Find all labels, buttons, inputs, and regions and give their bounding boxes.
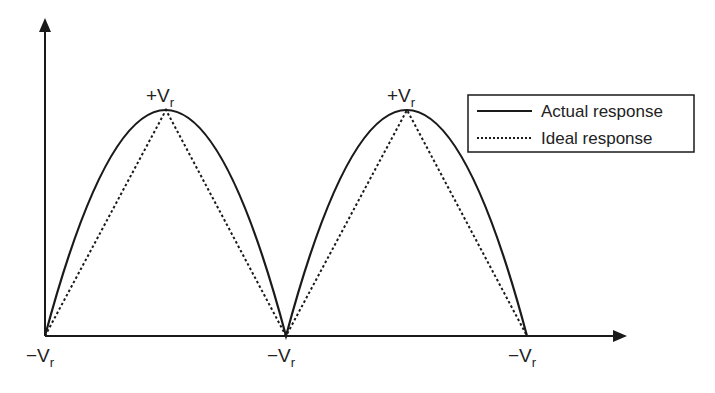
legend: Actual response Ideal response (468, 95, 694, 152)
trough-label-1: −Vr (26, 345, 55, 370)
diagram-svg: +Vr +Vr −Vr −Vr −Vr Actual response Idea… (0, 0, 715, 393)
peak-label-2: +Vr (387, 85, 416, 110)
ideal-response-curve (45, 110, 527, 336)
peak-label-1: +Vr (146, 85, 175, 110)
y-axis-arrow-icon (39, 18, 51, 32)
trough-label-3: −Vr (508, 345, 537, 370)
actual-response-curve (45, 110, 527, 336)
x-axis-arrow-icon (613, 330, 627, 342)
response-diagram: +Vr +Vr −Vr −Vr −Vr Actual response Idea… (0, 0, 715, 393)
legend-actual-label: Actual response (541, 102, 663, 121)
trough-label-2: −Vr (267, 345, 296, 370)
legend-ideal-label: Ideal response (541, 129, 653, 148)
